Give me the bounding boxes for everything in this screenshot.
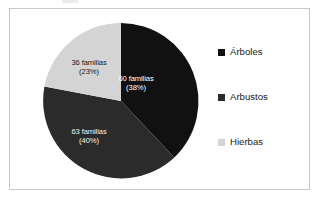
pie-plot-area: 60 familias (38%) 63 familias (40%) 36 f…: [10, 9, 311, 191]
legend-label-arbustos: Arbustos: [230, 92, 268, 102]
legend-item-arboles[interactable]: Árboles: [218, 45, 310, 59]
scan-artifact: [62, 0, 78, 3]
chart-frame: 60 familias (38%) 63 familias (40%) 36 f…: [9, 8, 310, 190]
pie-label-arbustos-percent: (40%): [58, 137, 120, 146]
pie-label-arboles-percent: (38%): [106, 84, 166, 93]
legend-swatch-icon-arboles: [218, 49, 225, 56]
legend-label-hierbas: Hierbas: [230, 137, 263, 147]
legend-swatch-icon-arbustos: [218, 94, 225, 101]
chart-screenshot: 60 familias (38%) 63 familias (40%) 36 f…: [0, 0, 322, 201]
pie-label-arbustos: 63 familias (40%): [58, 128, 120, 146]
legend-swatch-icon-hierbas: [218, 139, 225, 146]
legend-item-arbustos[interactable]: Arbustos: [218, 90, 310, 104]
chart-legend: Árboles Arbustos Hierbas: [218, 45, 310, 149]
pie-label-arboles: 60 familias (38%): [106, 75, 166, 93]
pie-label-hierbas: 36 familias (23%): [58, 59, 120, 77]
legend-label-arboles: Árboles: [230, 47, 263, 57]
pie-label-hierbas-percent: (23%): [58, 68, 120, 77]
legend-item-hierbas[interactable]: Hierbas: [218, 135, 310, 149]
